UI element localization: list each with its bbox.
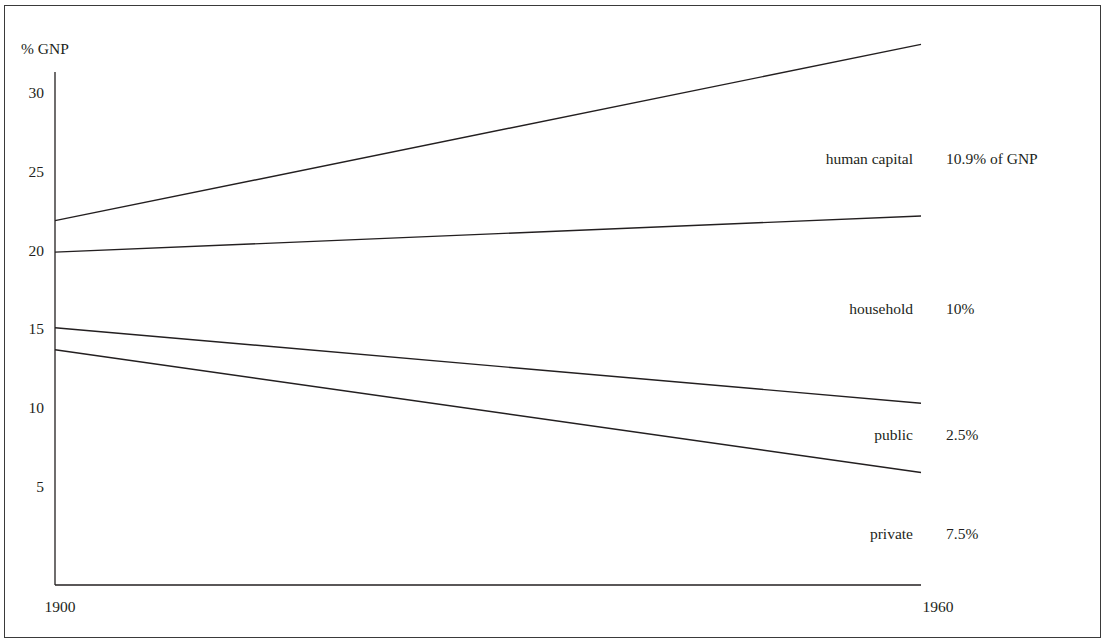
- series-line-line-2: [55, 216, 921, 252]
- y-tick-label: 10: [29, 399, 45, 416]
- series-line-line-3: [55, 328, 921, 404]
- series-line-line-1: [55, 44, 921, 220]
- annotation-value: 10%: [946, 300, 975, 317]
- annotations: human capital10.9% of GNPhousehold10%pub…: [826, 150, 1038, 542]
- x-tick-label: 1960: [923, 598, 954, 615]
- annotation-label: public: [874, 426, 913, 443]
- y-tick-label: 25: [29, 163, 45, 180]
- series-lines: [55, 44, 921, 472]
- y-tick-label: 20: [29, 242, 45, 259]
- y-tick-labels: 30252015105: [29, 84, 45, 494]
- annotation-label: private: [870, 525, 913, 542]
- series-line-line-4: [55, 350, 921, 473]
- annotation-value: 7.5%: [946, 525, 978, 542]
- annotation-value: 2.5%: [946, 426, 978, 443]
- line-chart: % GNP 30252015105 19001960 human capital…: [0, 0, 1106, 643]
- y-tick-label: 15: [29, 320, 45, 337]
- y-axis-label: % GNP: [21, 40, 69, 57]
- y-tick-label: 30: [29, 84, 45, 101]
- x-tick-label: 1900: [45, 598, 76, 615]
- annotation-value: 10.9% of GNP: [946, 150, 1038, 167]
- annotation-label: human capital: [826, 150, 913, 167]
- annotation-label: household: [849, 300, 913, 317]
- y-tick-label: 5: [36, 478, 44, 495]
- x-tick-labels: 19001960: [45, 598, 954, 615]
